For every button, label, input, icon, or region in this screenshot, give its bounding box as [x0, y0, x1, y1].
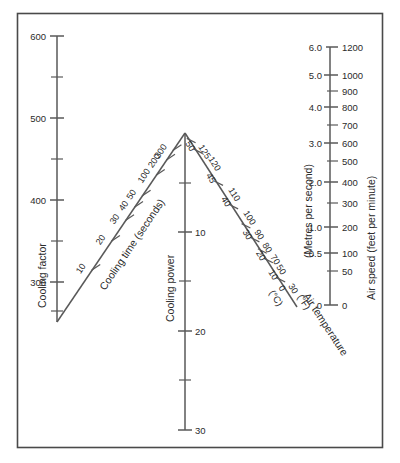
axis-cooling-power: 10 20 30 Cooling power	[164, 133, 206, 436]
air-speed-label-700-fpm: 700	[342, 120, 358, 131]
air-speed-label-300-fpm: 300	[342, 198, 358, 209]
nomogram-figure: 600 500 400 300 Cooling factor 10 20 30	[0, 0, 400, 463]
cooling-time-label-30: 30	[108, 212, 122, 226]
air-speed-label-400-fpm: 400	[342, 177, 358, 188]
air-speed-label-1000-fpm: 1000	[342, 70, 363, 81]
air-speed-label-6.0-ms: 6.0	[309, 42, 322, 53]
air-speed-label-200-fpm: 200	[342, 222, 358, 233]
cooling-power-label-30: 30	[195, 425, 206, 436]
axis-air-temperature: 125 50 120 45 110 40 100 90 30 80 70 20 …	[183, 133, 351, 358]
air-speed-label-600-fpm: 600	[342, 138, 358, 149]
air-speed-label-500-fpm: 500	[342, 156, 358, 167]
air-speed-label-1200-fpm: 1200	[342, 42, 363, 53]
air-speed-axis-title: Air speed (feet per minute)	[365, 176, 377, 300]
air-speed-label-0-fpm: 0	[342, 300, 347, 311]
axis-cooling-factor: 600 500 400 300 Cooling factor	[30, 31, 64, 323]
cooling-power-axis-title: Cooling power	[164, 254, 176, 322]
cooling-time-label-40: 40	[117, 199, 131, 213]
cooling-factor-label-400: 400	[30, 195, 46, 206]
air-speed-label-4.0-ms: 4.0	[309, 102, 322, 113]
cooling-factor-label-500: 500	[30, 113, 46, 124]
air-speed-label-100-fpm: 100	[342, 248, 358, 259]
air-speed-label-50-fpm: 50	[342, 266, 353, 277]
air-speed-label-3.0-ms: 3.0	[309, 138, 322, 149]
cooling-power-label-20: 20	[195, 326, 206, 337]
cooling-time-label-10: 10	[74, 262, 88, 276]
air-speed-label-800-fpm: 800	[342, 102, 358, 113]
air-temperature-unit-celsius: (°C)	[267, 288, 285, 308]
cooling-factor-axis-title: Cooling factor	[36, 243, 48, 308]
air-speed-label-5.0-ms: 5.0	[309, 70, 322, 81]
cooling-time-label-20: 20	[94, 233, 108, 247]
cooling-factor-label-600: 600	[30, 31, 46, 42]
air-speed-label-900-fpm: 900	[342, 86, 358, 97]
axis-air-speed: 6.0 1200 5.0 1000 900 4.0 800 700 3.0 60…	[302, 42, 377, 311]
air-temperature-label-30C: 30	[240, 228, 254, 242]
air-speed-unit-metric: (Metres per second)	[302, 164, 314, 258]
air-temperature-axis-line	[185, 133, 297, 307]
cooling-power-label-10: 10	[195, 227, 206, 238]
air-speed-label-0-ms: 0	[317, 300, 322, 311]
air-temperature-label-45C: 45	[204, 171, 218, 185]
cooling-time-label-50: 50	[124, 188, 138, 202]
cooling-time-label-100: 100	[136, 167, 153, 185]
